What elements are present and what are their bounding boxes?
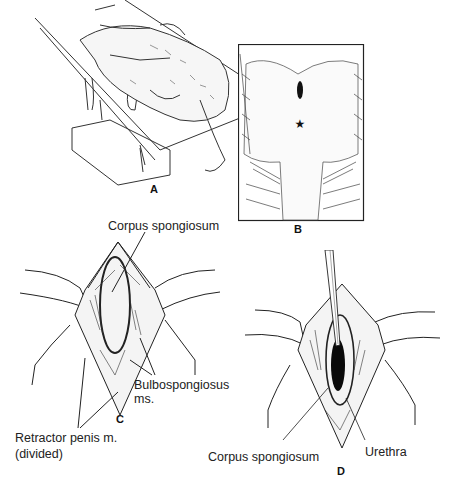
label-c-divided: (divided) (15, 447, 63, 461)
label-c-retractor-penis: Retractor penis m. (15, 431, 117, 445)
panel-b-illustration: ★ (238, 44, 368, 240)
label-d-corpus-spongiosum: Corpus spongiosum (208, 450, 319, 464)
panel-b: ★ B (238, 44, 368, 240)
label-c-bulbospongiosus-ms: ms. (134, 392, 154, 406)
panel-c-label: C (116, 413, 124, 425)
label-c-corpus-spongiosum: Corpus spongiosum (108, 219, 219, 233)
panel-d-illustration (200, 250, 451, 482)
panel-d-label: D (337, 465, 345, 477)
panel-d: Corpus spongiosum Urethra D (200, 250, 451, 482)
panel-a-illustration (0, 0, 240, 200)
svg-text:★: ★ (295, 117, 306, 131)
label-d-urethra: Urethra (365, 445, 407, 459)
panel-b-label: B (294, 223, 302, 235)
panel-a: A (0, 0, 240, 200)
panel-a-label: A (150, 183, 158, 195)
